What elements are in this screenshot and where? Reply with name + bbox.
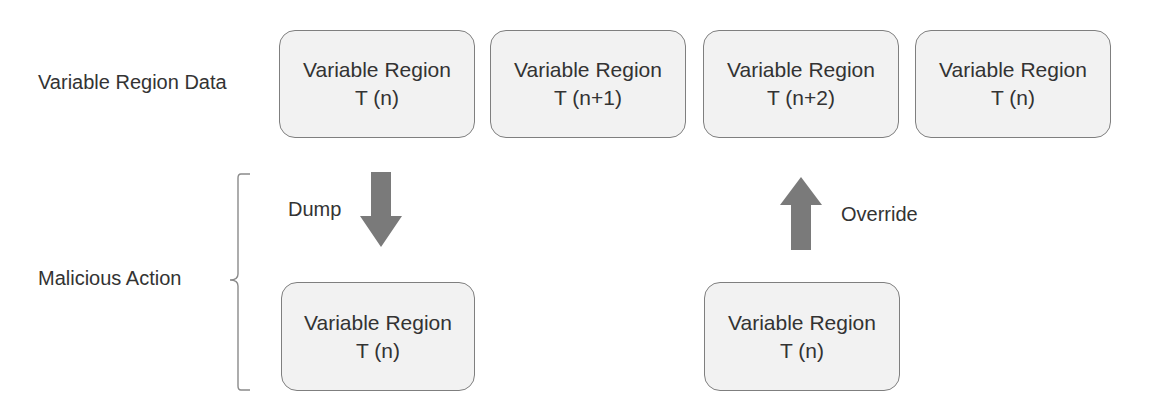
variable-region-box-tn-restored: Variable Region T (n) xyxy=(915,30,1111,138)
row-label-variable-region-data: Variable Region Data xyxy=(38,71,227,94)
override-label: Override xyxy=(841,203,918,226)
box-title: Variable Region xyxy=(303,56,451,84)
box-title: Variable Region xyxy=(727,56,875,84)
box-title: Variable Region xyxy=(514,56,662,84)
box-time: T (n) xyxy=(355,84,399,112)
box-time: T (n) xyxy=(780,337,824,365)
box-title: Variable Region xyxy=(304,309,452,337)
box-time: T (n) xyxy=(991,84,1035,112)
box-title: Variable Region xyxy=(728,309,876,337)
override-variable-region-box: Variable Region T (n) xyxy=(704,282,900,391)
dumped-variable-region-box: Variable Region T (n) xyxy=(281,282,475,391)
dump-label: Dump xyxy=(288,198,341,221)
variable-region-box-tn1: Variable Region T (n+1) xyxy=(490,30,686,138)
curly-brace-icon xyxy=(224,170,264,400)
box-time: T (n+2) xyxy=(767,84,835,112)
box-title: Variable Region xyxy=(939,56,1087,84)
dump-arrow-down-icon xyxy=(359,172,403,248)
box-time: T (n) xyxy=(356,337,400,365)
override-arrow-up-icon xyxy=(779,177,823,251)
variable-region-box-tn2: Variable Region T (n+2) xyxy=(703,30,899,138)
row-label-malicious-action: Malicious Action xyxy=(38,267,181,290)
variable-region-box-tn: Variable Region T (n) xyxy=(279,30,475,138)
box-time: T (n+1) xyxy=(554,84,622,112)
